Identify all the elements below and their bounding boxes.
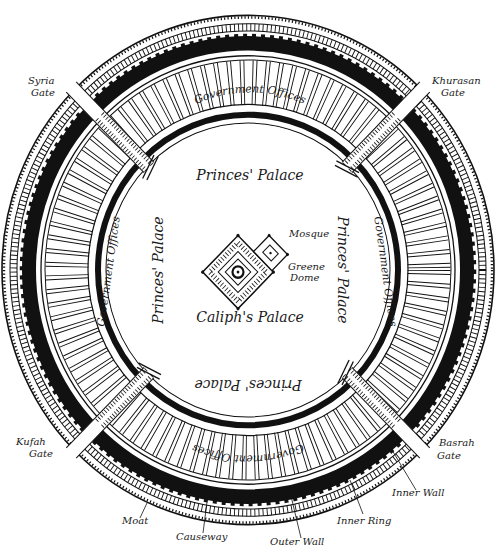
mosque-label: Mosque: [288, 228, 329, 239]
causeway-label: Causeway: [176, 531, 228, 542]
inner-ring-label: Inner Ring: [336, 515, 391, 526]
green-dome-label-2: Dome: [289, 272, 320, 283]
green-dome-label-1: Greene: [288, 261, 325, 272]
moat-label: Moat: [121, 515, 149, 526]
khurasan-gate-label-2: Gate: [441, 87, 465, 98]
caliphs-palace-label: Caliph's Palace: [196, 309, 304, 325]
gov-offices-top-label: Government Offices: [192, 82, 308, 107]
syria-gate-label-1: Syria: [28, 75, 54, 86]
kufah-gate-label-2: Gate: [29, 448, 53, 459]
princes-palace-right-label: Princes' Palace: [335, 215, 351, 323]
basrah-gate-label-2: Gate: [437, 450, 461, 461]
khurasan-gate-label-1: Khurasan: [431, 75, 481, 86]
princes-palace-top-label: Princes' Palace: [195, 167, 303, 183]
princes-palace-left-label: Princes' Palace: [150, 216, 166, 324]
kufah-gate-label-1: Kufah: [15, 436, 46, 447]
princes-palace-bottom-label: Princes' Palace: [194, 377, 302, 393]
round-city-map: Government Offices Government Offices Go…: [0, 0, 502, 555]
syria-gate-label-2: Gate: [31, 87, 55, 98]
inner-wall-label: Inner Wall: [391, 487, 444, 498]
outer-wall-label: Outer Wall: [270, 536, 324, 547]
basrah-gate-label-1: Basrah: [438, 437, 475, 448]
